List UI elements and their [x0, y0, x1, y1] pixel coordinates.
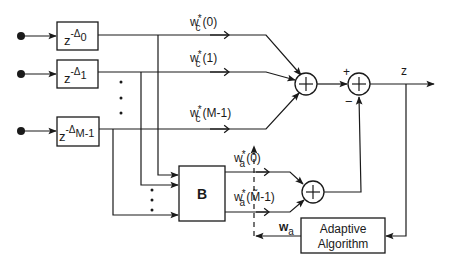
summer-adaptive: [302, 181, 324, 203]
wa-label: wa: [278, 220, 294, 237]
adaptive-algorithm-line1: Adaptive: [320, 222, 367, 236]
delay-block-1: z-Δ1: [57, 60, 98, 88]
delay-ellipsis: [120, 81, 123, 115]
summer-fixed: [295, 73, 317, 95]
error-feedback-line: [386, 84, 406, 236]
fixed-weight-label-0: w*c(0): [189, 13, 217, 33]
minus-sign: −: [345, 94, 353, 109]
blocking-matrix-b: B: [179, 166, 225, 221]
input-node-0: [17, 32, 56, 40]
summer-output: [348, 73, 370, 95]
fixed-weight-label-m-1: w*c(M-1): [189, 104, 231, 124]
output-label: z: [401, 64, 407, 78]
blocking-matrix-label: B: [197, 186, 207, 202]
delay-block-0: z-Δ0: [57, 22, 98, 50]
adaptive-to-sum2-arrow: [324, 97, 361, 192]
b-input-ellipsis: [151, 189, 154, 212]
plus-sign: +: [343, 65, 350, 79]
adaptive-weight-label-0: w*a(0): [233, 149, 261, 169]
adaptive-algorithm-block: Adaptive Algorithm: [301, 218, 385, 253]
input-node-1: [17, 70, 56, 78]
input-node-m-1: [17, 127, 56, 135]
diagram-canvas: z-Δ0 z-Δ1 z-ΔM-1 w*c(0) w*c(1) w*c(M-1): [0, 0, 450, 269]
fixed-branch-1: [98, 72, 295, 80]
delay-block-m-1: z-ΔM-1: [57, 117, 99, 146]
tap-to-b-m-1: [113, 129, 178, 215]
block-diagram: z-Δ0 z-Δ1 z-ΔM-1 w*c(0) w*c(1) w*c(M-1): [0, 0, 450, 269]
tap-to-b-0: [158, 35, 178, 175]
adaptive-algorithm-line2: Algorithm: [318, 237, 369, 251]
fixed-weight-label-1: w*c(1): [189, 49, 217, 69]
adaptive-branch-0: [225, 172, 303, 184]
